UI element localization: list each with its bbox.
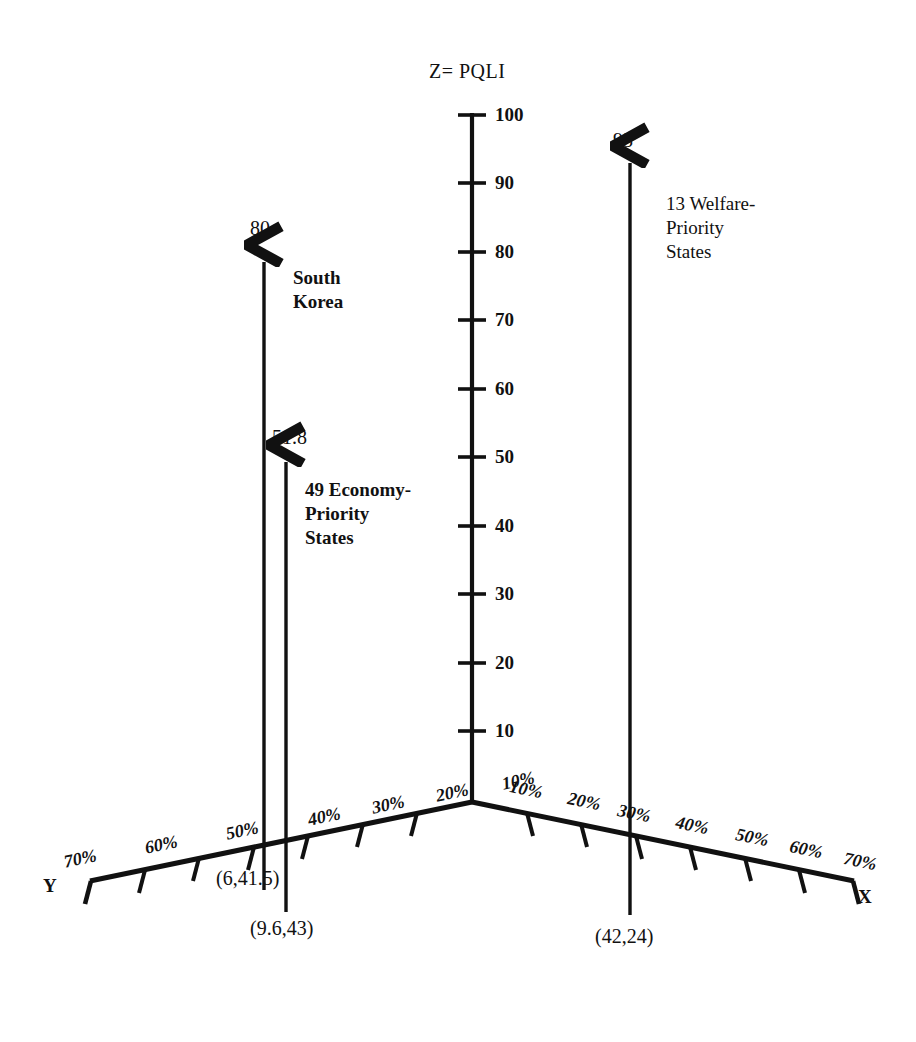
y-axis-end-label: Y [43, 875, 57, 896]
x-axis-end-label: X [858, 886, 872, 907]
arrow-note-south-korea: South Korea [293, 266, 343, 314]
z-tick-label-40: 40 [495, 515, 514, 536]
arrow-note-welfare-priority: 13 Welfare- Priority States [666, 192, 755, 263]
z-tick-label-20: 20 [495, 652, 514, 673]
y-tick-60 [139, 870, 145, 893]
arrow-value-economy-priority: 51.8 [272, 426, 307, 448]
z-tick-label-70: 70 [495, 309, 514, 330]
coord-label-south-korea: (6,41.5) [216, 867, 279, 889]
x-tick-60 [799, 870, 805, 893]
z-tick-label-80: 80 [495, 241, 514, 262]
z-tick-label-60: 60 [495, 378, 514, 399]
z-axis [458, 113, 486, 802]
chart-canvas [0, 0, 916, 1042]
z-tick-label-90: 90 [495, 172, 514, 193]
pqli-3d-chart: Z= PQLI 100 90 80 70 60 50 40 30 20 10 1… [0, 0, 916, 1042]
z-tick-label-30: 30 [495, 583, 514, 604]
arrow-note-economy-priority: 49 Economy- Priority States [305, 478, 411, 549]
z-tick-label-50: 50 [495, 446, 514, 467]
z-tick-label-10: 10 [495, 720, 514, 741]
y-tick-70 [85, 881, 91, 904]
arrow-value-south-korea: 80 [250, 217, 270, 239]
coord-label-economy: (9.6,43) [250, 917, 313, 939]
z-axis-title: Z= PQLI [429, 60, 505, 82]
arrow-value-welfare-priority: 93 [613, 129, 633, 151]
coord-label-welfare: (42,24) [595, 925, 653, 947]
z-tick-label-100: 100 [495, 104, 524, 125]
